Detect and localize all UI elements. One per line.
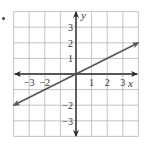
x-axis-label: x: [127, 77, 133, 89]
x-tick-label: 2: [105, 77, 110, 88]
y-axis-label: y: [80, 9, 86, 21]
y-tick-label: −2: [62, 100, 73, 111]
x-tick-label: 1: [89, 77, 94, 88]
y-tick-label: 3: [68, 22, 73, 33]
y-tick-label: 2: [68, 38, 73, 49]
x-tick-label: 3: [120, 77, 125, 88]
y-tick-label: −3: [62, 116, 73, 127]
y-tick-label: 1: [68, 53, 73, 64]
x-tick-label: −2: [39, 77, 50, 88]
x-tick-label: −3: [24, 77, 35, 88]
coordinate-graph: −3−2123321−2−3 x y: [0, 0, 145, 144]
